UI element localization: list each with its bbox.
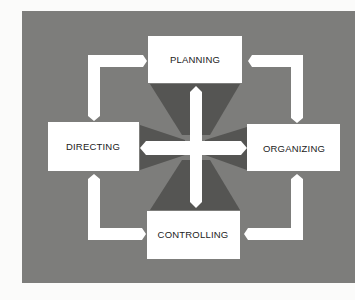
node-organizing: ORGANIZING	[247, 124, 340, 171]
node-controlling: CONTROLLING	[147, 211, 240, 259]
planning-label: PLANNING	[170, 54, 220, 65]
node-directing: DIRECTING	[48, 122, 139, 171]
organizing-label: ORGANIZING	[263, 143, 325, 154]
node-planning: PLANNING	[148, 36, 242, 83]
connector-directing-organizing	[140, 141, 247, 155]
directing-label: DIRECTING	[66, 141, 120, 152]
management-cycle-diagram: PLANNING DIRECTING ORGANIZING CONTROLLIN…	[0, 0, 355, 300]
controlling-label: CONTROLLING	[158, 229, 229, 240]
